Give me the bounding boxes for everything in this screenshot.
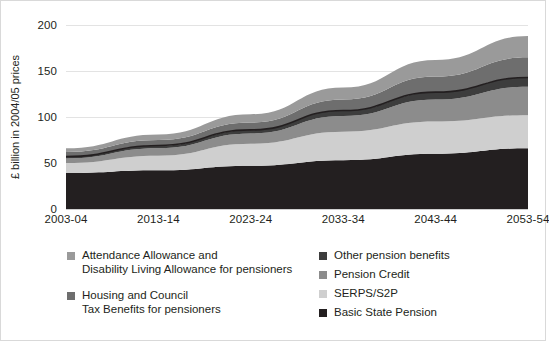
legend-label-basic-state-pension: Basic State Pension [334,306,437,320]
x-tick-2023-24: 2023-24 [229,213,272,225]
area-series-svg [66,25,528,209]
legend-swatch-pension-credit [319,271,327,279]
x-axis-line [66,209,528,210]
legend-item-basic-state-pension[interactable]: Basic State Pension [319,306,529,320]
y-tick-50: 50 [44,157,57,169]
x-tick-2043-44: 2043-44 [414,213,457,225]
legend-swatch-other-pension-benefits [319,252,327,260]
legend-column-left: Attendance Allowance and Disability Livi… [67,249,317,329]
y-tick-100: 100 [38,111,58,123]
legend-swatch-housing-council-tax [67,292,75,300]
legend-label-attendance-allowance: Attendance Allowance and Disability Livi… [82,249,292,276]
y-axis-title-label: £ billion in 2004/05 prices [9,55,21,179]
chart-legend: Attendance Allowance and Disability Livi… [1,249,547,339]
legend-swatch-serps-s2p [319,290,327,298]
y-tick-150: 150 [38,65,58,77]
x-axis-labels: 2003-04 2013-14 2023-24 2033-34 2043-44 … [66,213,528,229]
x-tick-2013-14: 2013-14 [137,213,180,225]
legend-label-pension-credit: Pension Credit [334,268,409,282]
legend-item-housing-council-tax[interactable]: Housing and Council Tax Benefits for pen… [67,289,317,316]
legend-swatch-basic-state-pension [319,309,327,317]
legend-item-serps-s2p[interactable]: SERPS/S2P [319,287,529,301]
legend-label-other-pension-benefits: Other pension benefits [334,249,450,263]
legend-label-serps-s2p: SERPS/S2P [334,287,398,301]
legend-swatch-attendance-allowance [67,252,75,260]
legend-column-right: Other pension benefits Pension Credit SE… [319,249,529,325]
x-tick-2033-34: 2033-34 [322,213,365,225]
x-tick-2053-54: 2053-54 [507,213,549,225]
legend-item-other-pension-benefits[interactable]: Other pension benefits [319,249,529,263]
y-tick-200: 200 [38,19,58,31]
y-axis-title: £ billion in 2004/05 prices [8,25,22,209]
legend-item-pension-credit[interactable]: Pension Credit [319,268,529,282]
stacked-areas [66,25,528,209]
plot-area: 200 150 100 50 0 [66,25,528,209]
legend-item-attendance-allowance[interactable]: Attendance Allowance and Disability Livi… [67,249,317,276]
legend-label-housing-council-tax: Housing and Council Tax Benefits for pen… [82,289,221,316]
x-tick-2003-04: 2003-04 [45,213,88,225]
